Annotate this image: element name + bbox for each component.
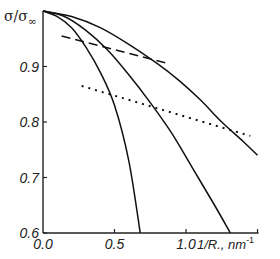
y-tick-label: 0.9 — [20, 59, 40, 75]
x-axis-label: 1/R., nm-1 — [197, 235, 254, 252]
y-axis-label: σ/σ∞ — [4, 8, 37, 28]
y-tick-label: 0.7 — [20, 170, 41, 186]
x-tick-label: 0.5 — [105, 236, 125, 252]
curve-2-line — [43, 11, 230, 233]
series-group — [43, 11, 258, 233]
x-tick-label: 0.0 — [33, 236, 53, 252]
chart: 0.60.70.80.90.00.51.0 σ/σ∞ 1/R., nm-1 — [0, 0, 280, 259]
y-tick-label: 0.8 — [20, 114, 40, 130]
x-tick-label: 1.0 — [176, 236, 196, 252]
axes: 0.60.70.80.90.00.51.0 — [20, 11, 259, 252]
dotted-fit-line — [82, 86, 251, 136]
